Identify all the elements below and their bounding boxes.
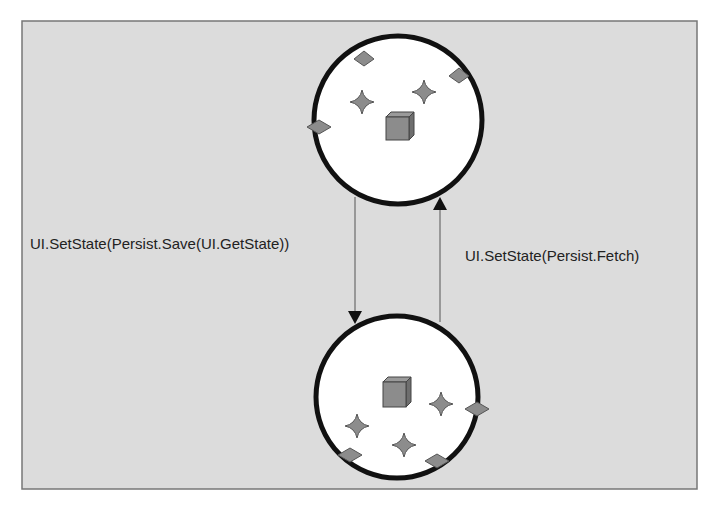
cube-icon [386,112,414,140]
state-diagram: UI.SetState(Persist.Save(UI.GetState)) U… [0,0,715,517]
save-arrow-label: UI.SetState(Persist.Save(UI.GetState)) [30,235,289,252]
fetch-arrow-label: UI.SetState(Persist.Fetch) [465,247,639,264]
cube-icon [383,377,411,407]
